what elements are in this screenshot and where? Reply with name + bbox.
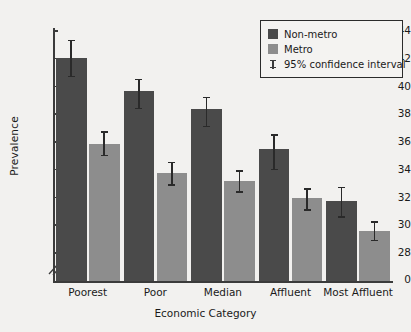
error-bar-cap-upper: [338, 187, 345, 189]
error-bar-cap-upper: [304, 188, 311, 190]
bar-metro-poorest: [89, 144, 120, 281]
error-bar-stem: [70, 40, 72, 76]
x-axis-title: Economic Category: [0, 307, 411, 319]
bar-non-metro-median: [191, 109, 222, 281]
legend-label-confidence-interval: 95% confidence interval: [284, 59, 405, 70]
error-bar-stem: [206, 97, 208, 126]
bar-non-metro-poorest: [56, 58, 87, 281]
bar-non-metro-poor: [124, 91, 155, 281]
bar-metro-median: [224, 181, 255, 281]
error-bar-stem: [138, 79, 140, 108]
error-bar-cap-lower: [135, 108, 142, 110]
legend-item-confidence-interval: 95% confidence interval: [268, 57, 396, 71]
error-bar-cap-lower: [203, 126, 210, 128]
error-bar-icon: [268, 59, 278, 70]
x-axis-line: [53, 281, 393, 283]
legend-item-non-metro: Non-metro: [268, 27, 396, 41]
legend-swatch-icon-metro: [268, 44, 278, 54]
error-bar-stem: [341, 187, 343, 216]
error-bar-stem: [273, 134, 275, 169]
error-bar-cap-upper: [135, 79, 142, 81]
y-axis-title: Prevalence: [8, 101, 20, 191]
legend-swatch-icon-non-metro: [268, 29, 278, 39]
error-bar-cap-lower: [371, 240, 378, 242]
error-bar-stem: [103, 131, 105, 155]
legend-label-metro: Metro: [284, 44, 313, 55]
bar-chart: Prevalence 2830323436384042440 PoorestPo…: [0, 0, 411, 332]
error-bar-cap-upper: [101, 131, 108, 133]
error-bar-cap-upper: [236, 170, 243, 172]
error-bar-cap-lower: [68, 76, 75, 78]
error-bar-stem: [374, 221, 376, 239]
error-bar-cap-lower: [338, 216, 345, 218]
legend-label-non-metro: Non-metro: [284, 29, 337, 40]
x-axis-tick-label-most-affluent: Most Affluent: [308, 286, 408, 298]
error-bar-cap-upper: [203, 97, 210, 99]
error-bar-stem: [306, 188, 308, 209]
error-bar-cap-lower: [101, 155, 108, 157]
error-bar-stem: [239, 170, 241, 191]
error-bar-cap-upper: [68, 40, 75, 42]
error-bar-cap-upper: [168, 162, 175, 164]
legend-item-metro: Metro: [268, 42, 396, 56]
error-bar-cap-upper: [371, 221, 378, 223]
error-bar-cap-upper: [271, 134, 278, 136]
error-bar-cap-lower: [271, 169, 278, 171]
bar-metro-poor: [157, 173, 188, 281]
legend: Non-metro Metro 95% confidence interval: [260, 20, 403, 78]
error-bar-stem: [171, 162, 173, 184]
error-bar-cap-lower: [304, 209, 311, 211]
error-bar-cap-lower: [236, 191, 243, 193]
error-bar-cap-lower: [168, 184, 175, 186]
